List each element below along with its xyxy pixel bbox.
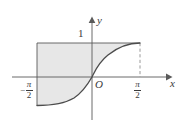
origin-label: O: [95, 79, 103, 90]
figure-canvas: [0, 0, 186, 131]
y-tick-label-one: 1: [78, 28, 84, 39]
numerator-pi: π: [26, 80, 33, 89]
x-tick-label-neg-pi-over-2: − π 2: [20, 80, 33, 101]
x-tick-label-pi-over-2: π 2: [134, 80, 141, 101]
numerator-pi: π: [134, 80, 141, 89]
minus-sign: −: [20, 86, 25, 95]
denominator-two: 2: [134, 91, 141, 100]
y-axis-label: y: [97, 15, 102, 26]
x-axis-label: x: [170, 78, 175, 89]
y-axis-arrow-icon: [89, 17, 96, 24]
denominator-two: 2: [26, 91, 33, 100]
math-figure: y x O 1 − π 2 π 2: [0, 0, 186, 131]
shaded-region: [37, 43, 140, 106]
